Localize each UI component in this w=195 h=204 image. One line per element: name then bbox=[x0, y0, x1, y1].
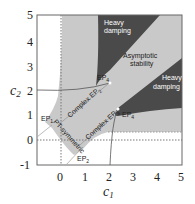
heavy-top-label-2: damping bbox=[104, 27, 131, 35]
y-axis-ticks: 5 4 3 2 1 0 -1 bbox=[20, 8, 33, 172]
asym-label-2: stability bbox=[130, 60, 154, 68]
heavy-top-label-1: Heavy bbox=[104, 19, 124, 27]
svg-text:1: 1 bbox=[82, 170, 88, 184]
ep1-line bbox=[37, 125, 52, 137]
svg-text:5: 5 bbox=[27, 8, 33, 22]
ep2-label: EP2 bbox=[77, 155, 89, 164]
svg-text:4: 4 bbox=[154, 170, 160, 184]
heavy-right-label-1: Heavy bbox=[162, 74, 182, 82]
svg-text:4: 4 bbox=[27, 35, 33, 49]
svg-text:1: 1 bbox=[27, 108, 33, 122]
y-axis-label: c2 bbox=[10, 83, 21, 99]
svg-text:0: 0 bbox=[27, 133, 33, 147]
svg-text:2: 2 bbox=[106, 170, 112, 184]
svg-text:3: 3 bbox=[130, 170, 136, 184]
svg-text:2: 2 bbox=[27, 84, 33, 98]
asym-label-1: Asymptotic bbox=[123, 52, 158, 60]
svg-text:5: 5 bbox=[178, 170, 184, 184]
svg-text:-1: -1 bbox=[20, 158, 30, 172]
x-axis-ticks: 0 1 2 3 4 5 bbox=[57, 170, 184, 184]
svg-text:3: 3 bbox=[27, 60, 33, 74]
svg-text:0: 0 bbox=[57, 170, 63, 184]
phase-diagram: Heavy damping Asymptotic stability Heavy… bbox=[0, 0, 195, 204]
heavy-right-label-2: damping bbox=[153, 83, 180, 91]
x-axis-label: c1 bbox=[103, 184, 114, 200]
